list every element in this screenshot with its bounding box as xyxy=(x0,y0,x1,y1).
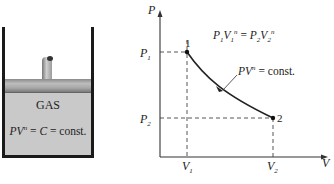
state-point-1 xyxy=(185,50,189,54)
point-label-2: 2 xyxy=(277,112,283,124)
curve-label-leader xyxy=(223,75,237,90)
relation-equation: P1V1n = P2V2n xyxy=(213,28,274,44)
point-label-1: 1 xyxy=(185,37,191,49)
y-tick-p1: P1 xyxy=(140,46,151,62)
x-tick-v2: V2 xyxy=(267,159,278,175)
x-axis-label: V xyxy=(322,156,329,171)
x-tick-v1: V1 xyxy=(182,159,193,175)
y-axis-label: P xyxy=(148,3,155,18)
y-axis-arrow-icon xyxy=(158,10,163,17)
dashed-guides xyxy=(160,40,273,157)
polytropic-curve xyxy=(187,52,273,118)
y-tick-p2: P2 xyxy=(140,112,151,128)
pv-diagram xyxy=(0,0,334,184)
curve-label: PVn = const. xyxy=(238,64,295,77)
state-point-2 xyxy=(271,116,275,120)
